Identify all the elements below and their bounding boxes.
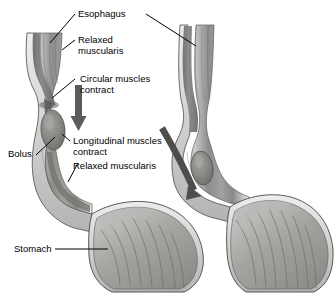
figure-canvas: Esophagus Relaxed muscularis Circular mu… [0,0,335,300]
label-circular-muscles-line2: contract [80,84,114,95]
label-bolus: Bolus [8,148,32,159]
label-esophagus: Esophagus [78,8,126,19]
label-relaxed-muscularis-top-line1: Relaxed [78,34,113,45]
anatomy-illustration [0,0,335,300]
leader-relaxed-top [62,40,75,50]
label-longitudinal-muscles-line1: Longitudinal muscles [73,135,162,146]
right-bolus-highlight [195,154,204,168]
label-longitudinal-muscles-line2: contract [73,146,107,157]
label-relaxed-muscularis-top-line2: muscularis [78,45,123,56]
left-bolus-highlight [44,114,54,130]
leader-esophagus-left [50,14,75,43]
label-circular-muscles-line1: Circular muscles [80,73,150,84]
left-constriction-shade [39,101,59,109]
label-relaxed-muscularis-lower: Relaxed muscularis [73,160,156,171]
label-stomach: Stomach [14,243,52,254]
